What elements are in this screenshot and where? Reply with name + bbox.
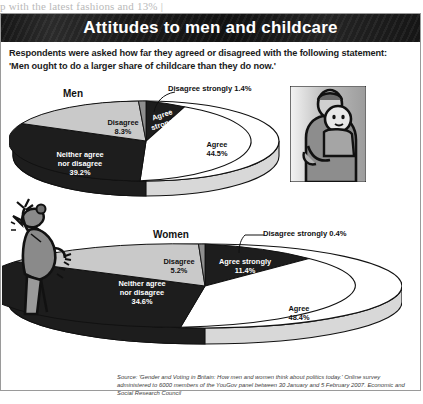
men-slice-disagree: Disagree 8.3% (101, 118, 145, 136)
header-bar: Attitudes to men and childcare (1, 14, 420, 42)
man-with-baby-svg (290, 86, 366, 182)
dancing-woman-illustration (7, 194, 73, 320)
women-slice-disagree: Disagree 5.2% (158, 257, 200, 275)
source-note: Source: 'Gender and Voting in Britain: H… (117, 373, 413, 398)
women-slice-agree: Agree 48.4% (273, 304, 325, 322)
men-disagree-strongly-callout: Disagree strongly 1.4% (168, 84, 252, 93)
charts-container: Men (1, 14, 422, 392)
men-slice-neither: Neither agree nor disagree 39.2% (39, 150, 121, 177)
bleed-through-text: p with the latest fashions and 13% | (0, 0, 423, 13)
men-slice-agree: Agree 44.5% (189, 140, 245, 158)
women-disagree-strongly-callout: Disagree strongly 0.4% (263, 229, 347, 238)
infographic-frame: Attitudes to men and childcare Responden… (0, 13, 421, 391)
women-callout-leader-line (231, 233, 267, 255)
man-with-baby-illustration (290, 86, 366, 186)
dancing-woman-svg (7, 194, 73, 316)
women-slice-agree-strongly: Agree strongly 11.4% (209, 257, 281, 275)
women-slice-neither: Neither agree nor disagree 34.6% (99, 279, 185, 306)
page-title: Attitudes to men and childcare (1, 18, 420, 38)
infographic-page: p with the latest fashions and 13% | Att… (0, 0, 423, 404)
